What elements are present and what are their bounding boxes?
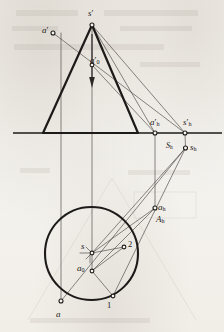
label-point-1: 1	[107, 301, 111, 310]
label-s-prime: s′	[88, 9, 93, 18]
point-a-prime	[51, 31, 55, 35]
point-a	[59, 299, 63, 303]
drawing-page: s′ a′ a′0 a′h s′h Sh sh ah Ah s a0 a 1 2	[0, 0, 224, 332]
label-a0-prime: a′0	[90, 56, 100, 65]
label-ah-lower: Ah	[156, 215, 165, 224]
ray-sprime-to-ahprime	[92, 25, 155, 133]
projection-drawing-canvas	[0, 0, 224, 332]
label-a-prime: a′	[42, 26, 48, 35]
label-capital-sh: Sh	[166, 142, 173, 151]
ray-shplan-to-a	[61, 148, 186, 301]
ray-shplan-to-s	[92, 148, 186, 253]
label-sh: sh	[190, 143, 197, 152]
label-point-2: 2	[128, 240, 132, 249]
point-a0	[90, 269, 94, 273]
point-1	[111, 294, 115, 298]
point-ah-prime	[153, 131, 157, 135]
point-s	[90, 251, 94, 255]
label-s: s	[81, 242, 85, 251]
point-sh-prime	[183, 131, 187, 135]
label-a: a	[56, 310, 61, 319]
plan-line-a0-to-2	[92, 247, 124, 271]
label-sh-prime: s′h	[183, 118, 192, 127]
point-2	[122, 245, 126, 249]
ray-sprime-to-shprime-2	[92, 25, 185, 133]
label-a0: a0	[77, 264, 85, 273]
point-s-prime	[90, 23, 94, 27]
label-ah-prime: a′h	[150, 118, 160, 127]
point-sh	[184, 146, 188, 150]
plan-line-a0-to-1	[92, 271, 113, 296]
label-ah: ah	[158, 203, 166, 212]
point-ah	[153, 206, 157, 210]
